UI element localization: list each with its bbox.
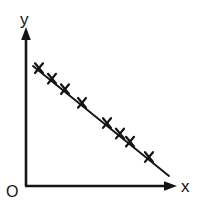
y-axis-label: y bbox=[20, 11, 29, 28]
plot-canvas bbox=[0, 0, 200, 210]
origin-label: O bbox=[6, 184, 18, 200]
data-point-markers bbox=[35, 63, 153, 162]
chart-figure: y x O bbox=[0, 0, 200, 210]
x-axis-arrow-icon bbox=[164, 181, 177, 191]
trendline bbox=[33, 66, 169, 176]
x-axis-label: x bbox=[181, 178, 190, 195]
